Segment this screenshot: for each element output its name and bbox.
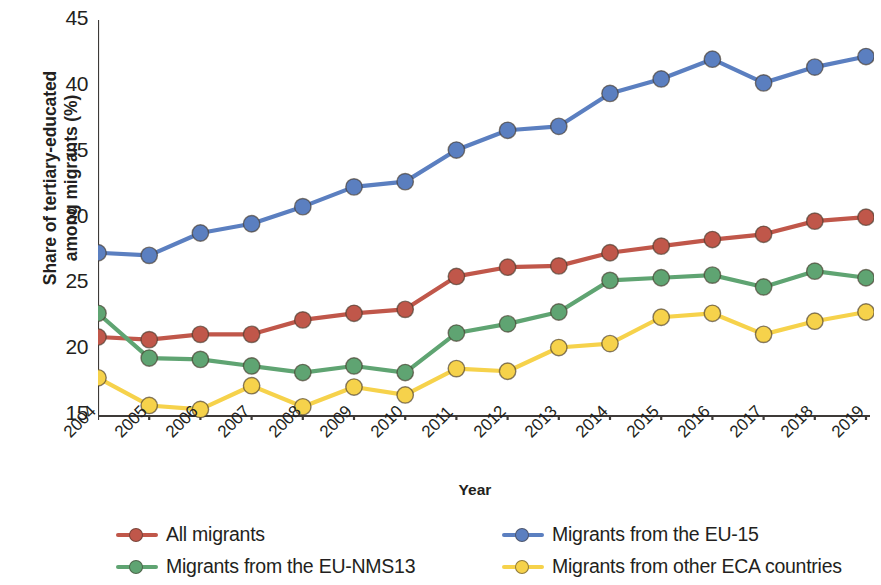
data-point xyxy=(653,71,669,87)
legend-marker-icon-other-eca xyxy=(502,556,544,578)
data-point xyxy=(499,122,515,138)
legend-item-other-eca: Migrants from other ECA countries xyxy=(502,552,842,582)
legend-label-other-eca: Migrants from other ECA countries xyxy=(552,557,842,577)
data-point xyxy=(448,268,464,284)
data-point xyxy=(243,216,259,232)
chart-legend: All migrants Migrants from the EU-15 Mig… xyxy=(108,520,881,584)
data-point xyxy=(704,305,720,321)
data-point xyxy=(98,329,106,345)
data-point xyxy=(499,363,515,379)
data-point xyxy=(602,245,618,261)
series-line-2 xyxy=(98,271,866,372)
data-point xyxy=(602,85,618,101)
data-point xyxy=(346,379,362,395)
data-point xyxy=(653,309,669,325)
data-point xyxy=(141,247,157,263)
legend-label-eu15: Migrants from the EU-15 xyxy=(552,525,759,545)
data-point xyxy=(653,238,669,254)
legend-marker-icon-eu15 xyxy=(502,524,544,546)
y-tick-label: 35 xyxy=(44,138,88,162)
y-tick-label: 30 xyxy=(44,204,88,228)
data-point xyxy=(295,364,311,380)
data-point xyxy=(858,209,874,225)
data-point xyxy=(243,378,259,394)
data-point xyxy=(346,358,362,374)
data-point xyxy=(295,312,311,328)
data-point xyxy=(243,358,259,374)
data-point xyxy=(397,301,413,317)
data-point xyxy=(858,48,874,64)
legend-label-all-migrants: All migrants xyxy=(166,525,265,545)
data-point xyxy=(653,270,669,286)
legend-item-all-migrants: All migrants xyxy=(116,520,265,550)
data-point xyxy=(704,267,720,283)
data-point xyxy=(755,326,771,342)
data-point xyxy=(397,387,413,403)
y-axis-tick-labels: 15202530354045 xyxy=(36,0,88,430)
legend-item-eu-nms13: Migrants from the EU-NMS13 xyxy=(116,552,415,582)
series-lines xyxy=(98,57,866,410)
plot-canvas xyxy=(98,10,874,420)
data-point xyxy=(551,304,567,320)
data-point xyxy=(192,351,208,367)
chart-figure: Share of tertiary-educated among migrant… xyxy=(0,0,881,585)
data-point xyxy=(448,142,464,158)
data-point xyxy=(448,360,464,376)
data-point xyxy=(141,350,157,366)
x-axis-tick-labels: 2004200520062007200820092010201120122013… xyxy=(0,418,881,488)
legend-marker-icon-eu-nms13 xyxy=(116,556,158,578)
data-point xyxy=(98,245,106,261)
data-point xyxy=(397,173,413,189)
data-point xyxy=(192,326,208,342)
data-point xyxy=(858,304,874,320)
data-point xyxy=(807,313,823,329)
data-point xyxy=(295,198,311,214)
series-line-0 xyxy=(98,217,866,339)
data-point xyxy=(551,339,567,355)
data-point xyxy=(807,213,823,229)
data-point xyxy=(807,263,823,279)
data-point xyxy=(346,305,362,321)
series-line-1 xyxy=(98,57,866,256)
data-point xyxy=(858,270,874,286)
data-point xyxy=(755,75,771,91)
data-point xyxy=(499,316,515,332)
data-point xyxy=(499,259,515,275)
data-point xyxy=(141,331,157,347)
data-point xyxy=(551,258,567,274)
plot-area xyxy=(98,10,874,420)
legend-label-eu-nms13: Migrants from the EU-NMS13 xyxy=(166,557,415,577)
data-point xyxy=(807,59,823,75)
data-point xyxy=(397,364,413,380)
legend-marker-icon-all-migrants xyxy=(116,524,158,546)
data-point xyxy=(243,326,259,342)
y-tick-label: 45 xyxy=(44,6,88,30)
data-point xyxy=(448,325,464,341)
data-point xyxy=(192,225,208,241)
data-point xyxy=(755,279,771,295)
data-point xyxy=(704,231,720,247)
x-axis-title: Year xyxy=(400,481,550,499)
y-tick-label: 40 xyxy=(44,72,88,96)
y-tick-label: 25 xyxy=(44,269,88,293)
data-point xyxy=(704,51,720,67)
data-point xyxy=(602,272,618,288)
legend-item-eu15: Migrants from the EU-15 xyxy=(502,520,759,550)
data-point xyxy=(755,226,771,242)
y-tick-label: 20 xyxy=(44,335,88,359)
data-point xyxy=(602,335,618,351)
data-point xyxy=(551,118,567,134)
data-point xyxy=(346,179,362,195)
